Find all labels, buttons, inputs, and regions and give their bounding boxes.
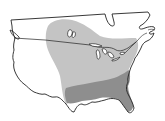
map-canvas — [0, 0, 165, 121]
range-map — [0, 0, 165, 121]
